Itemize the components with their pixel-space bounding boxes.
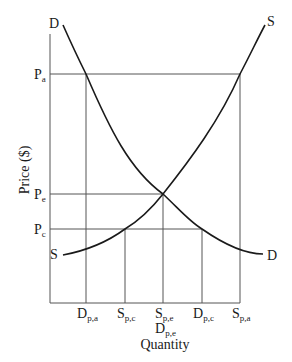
svg-text:Sp,c: Sp,c bbox=[117, 306, 136, 323]
y-axis-label: Price ($) bbox=[17, 145, 33, 194]
demand-label-bottom: D bbox=[267, 248, 277, 263]
x-axis-label: Quantity bbox=[141, 337, 190, 352]
supply-curve bbox=[63, 25, 265, 255]
price-label-pe: Pe bbox=[34, 187, 46, 204]
qty-label-spc: Sp,c bbox=[117, 306, 136, 323]
svg-text:Dp,a: Dp,a bbox=[77, 306, 98, 323]
price-label-pc: Pc bbox=[34, 222, 46, 239]
svg-text:Pc: Pc bbox=[34, 222, 46, 239]
qty-label-dpa: Dp,a bbox=[77, 306, 98, 323]
supply-demand-diagram: D S S D Pa Pe Pc Price ($) Dp,a Sp,c Sp,… bbox=[0, 0, 292, 362]
qty-label-spa: Sp,a bbox=[232, 306, 251, 323]
qty-label-dpc: Dp,c bbox=[193, 306, 214, 323]
svg-text:Pa: Pa bbox=[34, 67, 46, 84]
demand-label-top: D bbox=[49, 16, 59, 31]
qty-label-dpe: Dp,e bbox=[155, 321, 176, 338]
supply-label-bottom: S bbox=[50, 247, 58, 262]
price-label-pa: Pa bbox=[34, 67, 46, 84]
supply-label-top: S bbox=[267, 14, 275, 29]
svg-text:Dp,e: Dp,e bbox=[155, 321, 176, 338]
svg-text:Dp,c: Dp,c bbox=[193, 306, 214, 323]
svg-text:Sp,a: Sp,a bbox=[232, 306, 251, 323]
svg-text:Pe: Pe bbox=[34, 187, 46, 204]
